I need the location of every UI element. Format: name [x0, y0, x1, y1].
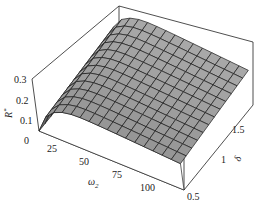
z-axis: 0.3 0.2 0.1 0 R*	[2, 74, 33, 146]
surface-plot: 0.3 0.2 0.1 0 R* 25 50 75 100 ω2 0.5 1 1…	[0, 0, 258, 203]
z-tick: 0	[24, 135, 29, 146]
z-tick: 0.1	[20, 115, 33, 126]
z-axis-label: R*	[2, 108, 14, 119]
z-tick: 0.2	[16, 95, 29, 106]
x-axis-label: ω2	[88, 176, 99, 190]
y-tick: 1.5	[232, 124, 245, 135]
x-tick: 50	[79, 156, 89, 167]
x-tick: 25	[47, 143, 57, 154]
z-tick: 0.3	[14, 74, 27, 85]
y-tick: 1	[221, 154, 226, 165]
y-axis-label: δ	[232, 154, 244, 162]
x-tick: 100	[140, 182, 155, 193]
x-tick: 75	[112, 169, 122, 180]
y-tick: 0.5	[187, 191, 200, 202]
surface-mesh	[39, 18, 248, 190]
